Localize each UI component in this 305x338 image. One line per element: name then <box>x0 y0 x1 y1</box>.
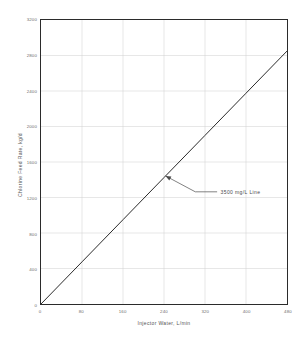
y-tick-label: 2000 <box>27 124 37 129</box>
annotation-leader-line <box>41 20 287 304</box>
x-tick-label: 80 <box>79 309 84 314</box>
y-tick-label: 1600 <box>27 160 37 165</box>
x-tick-label: 320 <box>201 309 209 314</box>
y-tick-label: 2400 <box>27 88 37 93</box>
y-tick-label: 3200 <box>27 17 37 22</box>
arrowhead-icon <box>166 176 172 180</box>
plot-area <box>40 19 288 305</box>
y-tick-label: 1200 <box>27 195 37 200</box>
x-tick-label: 240 <box>160 309 168 314</box>
annotation-label: 3500 mg/L Line <box>221 189 261 195</box>
x-tick-label: 160 <box>119 309 127 314</box>
x-axis-title: Injector Water, L/min <box>40 320 288 326</box>
y-axis-title: Chlorine Feed Rate, kg/d <box>17 95 23 235</box>
chart-figure: 0400800120016002000240028003200 3500 mg/… <box>0 0 305 338</box>
x-tick-label: 0 <box>39 309 42 314</box>
leader-arrow-icon <box>166 176 218 192</box>
x-tick-label: 400 <box>243 309 251 314</box>
y-tick-label: 0 <box>34 303 37 308</box>
y-tick-label: 800 <box>29 231 37 236</box>
x-tick-label: 480 <box>284 309 292 314</box>
y-tick-label: 2800 <box>27 52 37 57</box>
y-tick-label: 400 <box>29 267 37 272</box>
x-axis-tick-labels: 080160240320400480 <box>40 309 288 319</box>
